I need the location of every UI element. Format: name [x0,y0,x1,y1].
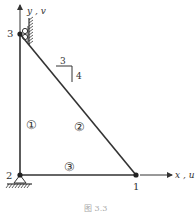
node-3-label: 3 [7,28,13,39]
roller-support-icon [22,17,33,45]
element-3-label: ③ [64,160,75,174]
slope-run-label: 3 [60,56,66,66]
truss-diagram: y , v x , u ① ② ③ 3 4 3 [0,0,196,214]
node-1 [133,172,138,177]
x-axis-label: x , u [175,170,195,180]
element-2 [20,34,136,175]
node-3 [17,31,22,36]
element-2-label: ② [74,120,85,134]
figure-caption: 图 3.3 [84,204,107,213]
y-axis-label: y , v [26,6,46,16]
slope-rise-label: 4 [76,71,82,81]
node-2 [17,172,22,177]
element-1-label: ① [26,118,37,132]
node-2-label: 2 [6,170,12,181]
node-1-label: 1 [133,181,139,192]
